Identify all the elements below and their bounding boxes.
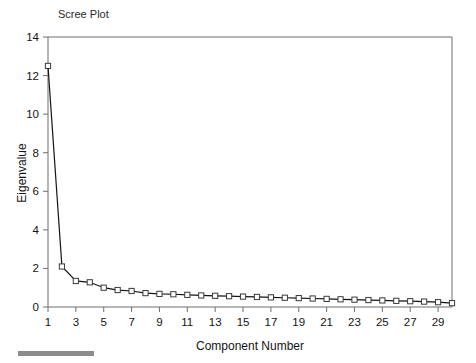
data-point-marker xyxy=(45,63,50,68)
x-tick-label: 23 xyxy=(348,316,361,328)
data-point-marker xyxy=(157,291,162,296)
data-point-marker xyxy=(380,298,385,303)
x-tick-label: 3 xyxy=(73,316,79,328)
data-point-marker xyxy=(268,295,273,300)
figure-background xyxy=(0,0,476,363)
y-tick-label: 0 xyxy=(33,301,39,313)
data-point-marker xyxy=(171,292,176,297)
data-point-marker xyxy=(240,294,245,299)
data-point-marker xyxy=(366,297,371,302)
x-tick-label: 19 xyxy=(292,316,305,328)
y-tick-label: 12 xyxy=(26,70,39,82)
data-point-marker xyxy=(101,285,106,290)
data-point-marker xyxy=(115,287,120,292)
data-point-marker xyxy=(254,294,259,299)
x-tick-label: 9 xyxy=(156,316,162,328)
x-tick-label: 25 xyxy=(376,316,389,328)
data-point-marker xyxy=(449,301,454,306)
x-tick-label: 27 xyxy=(404,316,417,328)
data-point-marker xyxy=(408,299,413,304)
x-tick-label: 1 xyxy=(45,316,51,328)
y-tick-label: 10 xyxy=(26,108,39,120)
x-tick-label: 29 xyxy=(432,316,445,328)
data-point-marker xyxy=(338,297,343,302)
y-tick-label: 6 xyxy=(33,185,39,197)
data-point-marker xyxy=(324,296,329,301)
x-tick-label: 17 xyxy=(264,316,277,328)
data-point-marker xyxy=(129,288,134,293)
bottom-edge-artifact xyxy=(18,351,94,356)
y-tick-label: 2 xyxy=(33,262,39,274)
data-point-marker xyxy=(282,295,287,300)
y-tick-label: 8 xyxy=(33,147,39,159)
scree-plot-svg: Scree Plot 02468101214 13579111315171921… xyxy=(0,0,476,363)
y-axis-title: Eigenvalue xyxy=(15,143,29,203)
x-tick-label: 11 xyxy=(181,316,193,328)
data-point-marker xyxy=(59,264,64,269)
data-point-marker xyxy=(310,296,315,301)
data-point-marker xyxy=(213,293,218,298)
data-point-marker xyxy=(394,298,399,303)
data-point-marker xyxy=(87,280,92,285)
data-point-marker xyxy=(435,300,440,305)
data-point-marker xyxy=(73,278,78,283)
x-tick-label: 5 xyxy=(101,316,107,328)
chart-title: Scree Plot xyxy=(58,8,109,20)
data-point-marker xyxy=(185,292,190,297)
data-point-marker xyxy=(143,291,148,296)
y-tick-label: 4 xyxy=(33,224,40,236)
x-tick-label: 13 xyxy=(209,316,222,328)
x-tick-label: 15 xyxy=(237,316,250,328)
scree-plot-figure: Scree Plot 02468101214 13579111315171921… xyxy=(0,0,476,363)
data-point-marker xyxy=(352,297,357,302)
x-tick-label: 7 xyxy=(128,316,134,328)
x-axis-title: Component Number xyxy=(196,339,304,353)
y-tick-label: 14 xyxy=(26,31,39,43)
x-tick-label: 21 xyxy=(320,316,333,328)
data-point-marker xyxy=(422,299,427,304)
data-point-marker xyxy=(199,293,204,298)
data-point-marker xyxy=(227,294,232,299)
data-point-marker xyxy=(296,296,301,301)
